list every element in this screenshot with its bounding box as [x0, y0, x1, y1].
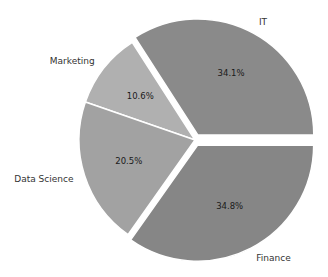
pie-chart: 34.1%10.6%20.5%34.8% ITMarketingData Sci…: [0, 0, 328, 277]
category-label-marketing: Marketing: [50, 56, 95, 66]
pie-slices: [79, 19, 314, 261]
category-label-finance: Finance: [256, 253, 291, 263]
pct-label-finance: 34.8%: [216, 201, 243, 211]
pct-label-data-science: 20.5%: [115, 156, 142, 166]
pie-chart-canvas: 34.1%10.6%20.5%34.8% ITMarketingData Sci…: [0, 0, 328, 277]
category-label-data-science: Data Science: [14, 174, 74, 184]
category-label-it: IT: [259, 17, 268, 27]
pct-label-it: 34.1%: [218, 68, 245, 78]
pct-label-marketing: 10.6%: [127, 91, 154, 101]
